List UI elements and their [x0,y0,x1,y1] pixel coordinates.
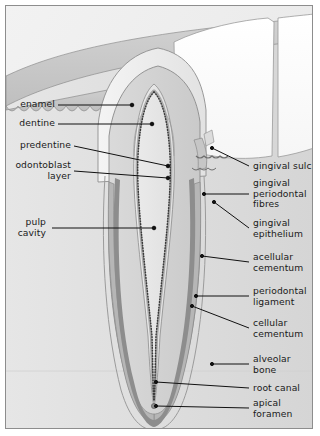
label-periodontal-ligament: periodontal ligament [253,286,313,307]
label-gingival-periodontal-fibres: gingival periodontal fibres [253,178,313,210]
label-predentine: predentine [5,140,71,151]
label-dentine: dentine [5,118,55,129]
diagram-frame: enamel dentine predentine odontoblast la… [5,5,313,429]
diagram-canvas: enamel dentine predentine odontoblast la… [0,0,320,436]
label-cellular-cementum: cellular cementum [253,318,313,339]
adjacent-tooth-2 [278,14,313,157]
label-gingival-epithelium: gingival epithelium [253,218,313,239]
label-enamel: enamel [5,99,55,110]
label-gingival-sulcus: gingival sulcus [253,161,313,172]
label-apical-foramen: apical foramen [253,398,313,419]
label-alveolar-bone: alveolar bone [253,354,313,375]
label-odontoblast-layer: odontoblast layer [5,160,71,181]
label-pulp-cavity: pulp cavity [5,217,46,238]
label-root-canal: root canal [253,383,313,394]
label-acellular-cementum: acellular cementum [253,252,313,273]
